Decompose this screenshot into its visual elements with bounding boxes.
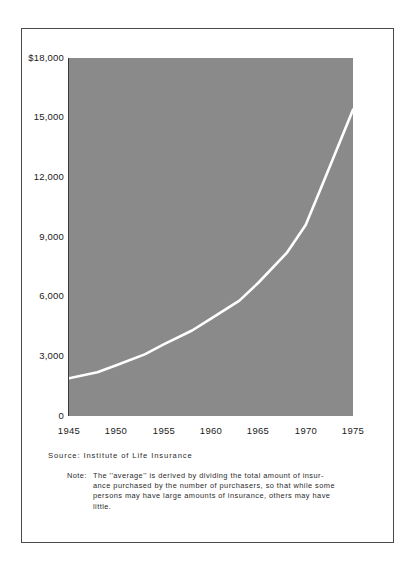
chart-area: $18,000 15,000 12,000 9,000 6,000 3,000 … [22,29,395,441]
y-tick-label-9000: 9,000 [4,232,64,242]
x-tick-label-1970: 1970 [283,425,329,436]
y-tick-label-12000: 12,000 [4,172,64,182]
figure-frame: $18,000 15,000 12,000 9,000 6,000 3,000 … [21,28,394,543]
footnote-line-1: The ''average'' is derived by dividing t… [93,471,379,481]
x-tick-label-1965: 1965 [235,425,281,436]
y-tick-label-3000: 3,000 [4,351,64,361]
source-note: Source: Institute of Life Insurance [48,451,193,460]
y-tick-label-0: 0 [4,411,64,421]
x-tick-label-1975: 1975 [330,425,376,436]
y-tick-label-15000: 15,000 [4,112,64,122]
footnote-line-2: ance purchased by the number of purchase… [93,481,379,491]
y-axis-line [68,58,69,416]
data-line-svg [69,58,353,416]
x-tick-label-1945: 1945 [46,425,92,436]
y-tick-label-18000: $18,000 [4,53,64,63]
x-tick-label-1950: 1950 [93,425,139,436]
footnote-line-3: persons may have large amounts of insura… [93,491,379,501]
footnote-label: Note: [67,471,87,481]
footnote-line-4: little. [93,502,379,512]
footnote-block: Note: The ''average'' is derived by divi… [67,471,379,512]
x-tick-label-1960: 1960 [188,425,234,436]
plot-panel [69,58,353,416]
x-tick-label-1955: 1955 [141,425,187,436]
y-tick-label-6000: 6,000 [4,291,64,301]
data-line-series-0 [69,110,353,379]
